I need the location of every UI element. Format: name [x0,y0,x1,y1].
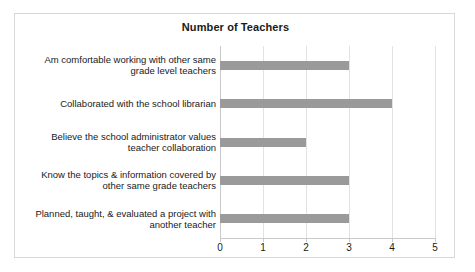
category-axis-labels: Am comfortable working with other samegr… [15,46,220,238]
gridline-5 [435,46,436,238]
x-tick-label-5: 5 [425,242,445,253]
bar [220,214,349,223]
category-label: Planned, taught, & evaluated a project w… [24,208,220,230]
category-label-line: another teacher [24,219,216,230]
category-label-line: other same grade teachers [24,180,216,191]
category-label-line: Planned, taught, & evaluated a project w… [24,208,216,219]
plot-area [220,46,435,238]
bar [220,138,306,147]
category-label: Collaborated with the school librarian [24,98,220,109]
category-label: Know the topics & information covered by… [24,169,220,191]
category-label-line: grade level teachers [24,65,216,76]
x-tick-label-4: 4 [382,242,402,253]
gridline-2 [306,46,307,238]
x-tick-label-0: 0 [210,242,230,253]
gridline-3 [349,46,350,238]
bar [220,61,349,70]
chart-title: Number of Teachers [15,21,456,33]
category-label-line: teacher collaboration [24,142,216,153]
x-tick-label-3: 3 [339,242,359,253]
category-label-line: Believe the school administrator values [24,131,216,142]
category-label: Believe the school administrator valuest… [24,131,220,153]
bar [220,99,392,108]
chart-container: Number of Teachers Am comfortable workin… [14,13,455,258]
category-label: Am comfortable working with other samegr… [24,54,220,76]
x-tick-label-2: 2 [296,242,316,253]
x-axis-line [220,238,436,239]
gridline-4 [392,46,393,238]
category-label-line: Know the topics & information covered by [24,169,216,180]
category-label-line: Am comfortable working with other same [24,54,216,65]
x-tick-label-1: 1 [253,242,273,253]
bar [220,176,349,185]
x-axis-tick-labels: 012345 [220,242,435,258]
category-label-line: Collaborated with the school librarian [24,98,216,109]
